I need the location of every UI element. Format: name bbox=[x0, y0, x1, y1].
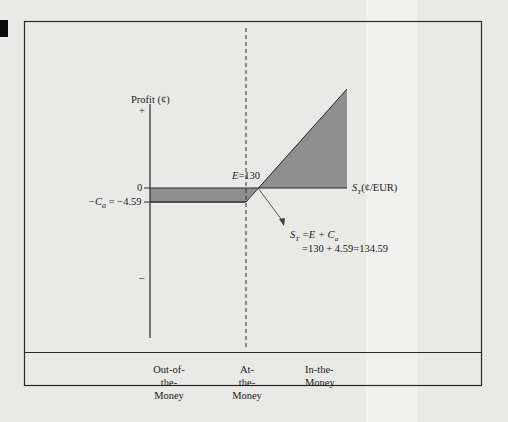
breakeven-equation: =E + C bbox=[299, 229, 334, 240]
otm-line-1: Out-of- bbox=[149, 363, 189, 376]
itm-line-1: In-the- bbox=[305, 363, 345, 376]
atm-line-3: Money bbox=[229, 389, 265, 402]
y-minus-marker: – bbox=[139, 272, 144, 284]
strike-value: =130 bbox=[238, 170, 260, 181]
itm-line-2: Money bbox=[305, 376, 345, 389]
premium-value: = −4.59 bbox=[106, 196, 141, 207]
payoff-chart bbox=[0, 0, 508, 422]
atm-line-1: At- bbox=[229, 363, 265, 376]
x-axis-unit: (¢/EUR) bbox=[361, 182, 397, 193]
breakeven-subscript-a: a bbox=[335, 235, 339, 243]
x-axis-label: ST(¢/EUR) bbox=[352, 182, 397, 198]
loss-region bbox=[150, 188, 258, 202]
breakeven-value: =130 + 4.59=134.59 bbox=[302, 243, 388, 255]
breakeven-arrow bbox=[258, 188, 284, 223]
moneyness-at-the-money: At- the- Money bbox=[229, 363, 265, 402]
moneyness-in-the-money: In-the- Money bbox=[305, 363, 345, 389]
moneyness-out-of-the-money: Out-of- the- Money bbox=[149, 363, 189, 402]
otm-line-3: Money bbox=[149, 389, 189, 402]
zero-label: 0 bbox=[137, 182, 142, 194]
arrow-head-icon bbox=[279, 218, 285, 226]
atm-line-2: the- bbox=[229, 376, 265, 389]
premium-symbol: −C bbox=[88, 196, 102, 207]
y-axis-label: Profit (¢) bbox=[131, 94, 170, 106]
y-plus-marker: + bbox=[139, 105, 145, 117]
strike-label: E=130 bbox=[232, 170, 260, 182]
otm-line-2: the- bbox=[149, 376, 189, 389]
premium-label: −Ca = −4.59 bbox=[88, 196, 142, 212]
